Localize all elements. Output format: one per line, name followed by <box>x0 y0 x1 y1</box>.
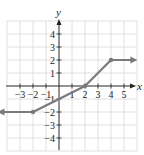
x-tick-label: 3 <box>96 89 101 100</box>
right-arrow-icon <box>130 57 137 64</box>
y-tick-label: −2 <box>44 107 55 118</box>
x-axis-label: x <box>136 80 142 92</box>
y-axis-label: y <box>55 6 61 18</box>
x-tick-label: 5 <box>122 89 127 100</box>
y-axis-arrow-icon <box>57 19 62 25</box>
x-axis-arrow-icon <box>130 84 136 89</box>
function-graph: −3−2−112345−4−3−2−11234 x y <box>0 0 144 155</box>
x-tick-label: 4 <box>109 89 114 100</box>
x-tick-label: −2 <box>28 89 39 100</box>
x-tick-label: 2 <box>83 89 88 100</box>
left-arrow-icon <box>0 109 5 116</box>
y-tick-label: 2 <box>50 55 55 66</box>
y-tick-label: 3 <box>50 42 55 53</box>
data-point <box>31 110 35 114</box>
y-tick-label: −3 <box>44 120 55 131</box>
x-tick-label: −3 <box>15 89 26 100</box>
y-tick-label: 1 <box>50 68 55 79</box>
axes <box>6 19 136 150</box>
data-point <box>83 84 87 88</box>
y-tick-label: 4 <box>50 29 55 40</box>
y-tick-label: −4 <box>44 133 55 144</box>
data-point <box>109 58 113 62</box>
